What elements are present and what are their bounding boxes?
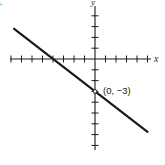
y-intercept-point (93, 90, 97, 94)
part-label: a. (0, 0, 3, 7)
coordinate-plot: a. x y (0, −3) (0, 0, 165, 165)
y-axis-label: y (90, 0, 95, 7)
data-line (14, 29, 147, 132)
axes (10, 6, 151, 150)
x-axis-label: x (153, 53, 159, 64)
point-label: (0, −3) (103, 85, 131, 96)
